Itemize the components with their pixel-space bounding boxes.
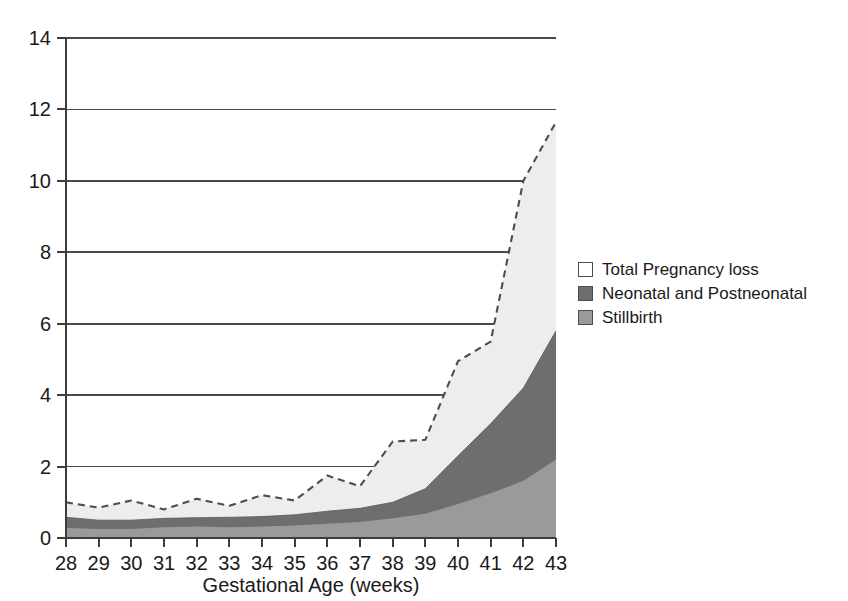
x-axis-tick-labels: 28293031323334353637383940414243	[55, 552, 567, 574]
legend-item-total-pregnancy-loss: Total Pregnancy loss	[578, 258, 840, 280]
x-tick-label-38: 38	[382, 552, 404, 574]
x-tick-label-31: 31	[153, 552, 175, 574]
legend-item-stillbirth: Stillbirth	[578, 306, 840, 328]
y-axis-tick-labels: 02468101214	[29, 27, 51, 549]
y-tick-label-8: 8	[40, 241, 51, 263]
y-tick-label-14: 14	[29, 27, 51, 49]
y-tick-label-10: 10	[29, 170, 51, 192]
legend-label-total-pregnancy-loss: Total Pregnancy loss	[602, 260, 759, 279]
x-tick-label-37: 37	[349, 552, 371, 574]
x-tick-label-36: 36	[316, 552, 338, 574]
x-axis-title: Gestational Age (weeks)	[203, 574, 420, 596]
legend-label-stillbirth: Stillbirth	[602, 308, 662, 327]
legend-swatch-neonatal-and-postneonatal	[578, 286, 593, 301]
legend-swatch-stillbirth	[578, 310, 593, 325]
x-tick-label-42: 42	[512, 552, 534, 574]
x-tick-label-33: 33	[218, 552, 240, 574]
x-axis-ticks	[66, 538, 556, 547]
y-tick-label-6: 6	[40, 313, 51, 335]
legend-item-neonatal-and-postneonatal: Neonatal and Postneonatal	[578, 282, 840, 304]
chart-legend: Total Pregnancy loss Neonatal and Postne…	[578, 258, 840, 330]
y-tick-label-4: 4	[40, 384, 51, 406]
x-tick-label-41: 41	[480, 552, 502, 574]
y-tick-label-2: 2	[40, 456, 51, 478]
y-tick-label-0: 0	[40, 527, 51, 549]
x-tick-label-28: 28	[55, 552, 77, 574]
x-tick-label-29: 29	[88, 552, 110, 574]
x-tick-label-30: 30	[120, 552, 142, 574]
y-axis-ticks	[57, 38, 66, 538]
y-tick-label-12: 12	[29, 98, 51, 120]
x-tick-label-39: 39	[414, 552, 436, 574]
x-tick-label-35: 35	[284, 552, 306, 574]
x-tick-label-34: 34	[251, 552, 273, 574]
legend-swatch-total-pregnancy-loss	[578, 262, 593, 277]
x-tick-label-32: 32	[186, 552, 208, 574]
x-tick-label-40: 40	[447, 552, 469, 574]
legend-label-neonatal-and-postneonatal: Neonatal and Postneonatal	[602, 284, 807, 303]
chart-figure: 02468101214 2829303132333435363738394041…	[0, 0, 848, 601]
x-tick-label-43: 43	[545, 552, 567, 574]
